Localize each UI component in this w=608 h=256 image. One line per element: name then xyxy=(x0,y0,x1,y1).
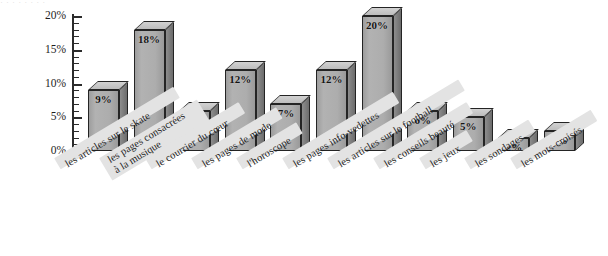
x-axis-category-labels: les articles sur le skateles pages consa… xyxy=(0,0,608,256)
bar-chart: · · · · · · · · 0%5%10%15%20% 9%18%6%12%… xyxy=(0,0,608,256)
